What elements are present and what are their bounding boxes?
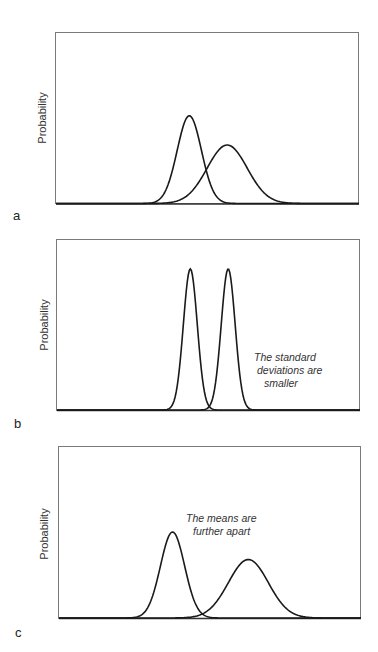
- panel-c: Probability The means are further apart …: [0, 0, 378, 652]
- curves: [59, 532, 361, 618]
- annotation-text: The means are further apart: [186, 512, 257, 538]
- annotation-line: The means are: [186, 512, 257, 525]
- annotation-line: further apart: [186, 525, 257, 538]
- y-axis-label: Probability: [38, 506, 50, 562]
- plot-area-c: [0, 0, 378, 652]
- distribution-curve: [59, 560, 361, 618]
- distribution-curve: [59, 532, 361, 618]
- panel-label-c: c: [15, 625, 22, 640]
